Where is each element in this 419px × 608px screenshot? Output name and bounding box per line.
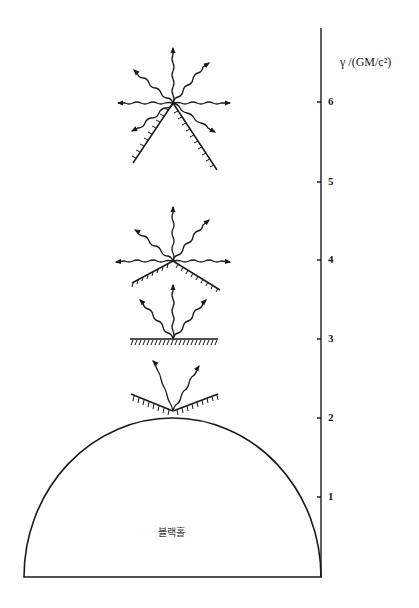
emitter-level-6 <box>118 48 230 170</box>
black-hole-emission-diagram <box>0 0 419 608</box>
black-hole-label: 블랙홀 <box>158 524 185 539</box>
axis-title: γ /(GM/c²) <box>340 55 391 70</box>
tick-label-4: 4 <box>328 253 334 265</box>
black-hole-shape <box>24 418 321 577</box>
tick-label-1: 1 <box>328 490 334 502</box>
emitter-level-4 <box>116 207 230 292</box>
tick-label-6: 6 <box>328 95 334 107</box>
emitter-level-3 <box>130 285 218 345</box>
tick-label-5: 5 <box>328 175 334 187</box>
tick-label-2: 2 <box>328 411 334 423</box>
emitter-level-2 <box>131 361 218 415</box>
radius-axis <box>317 28 321 577</box>
tick-label-3: 3 <box>328 332 334 344</box>
